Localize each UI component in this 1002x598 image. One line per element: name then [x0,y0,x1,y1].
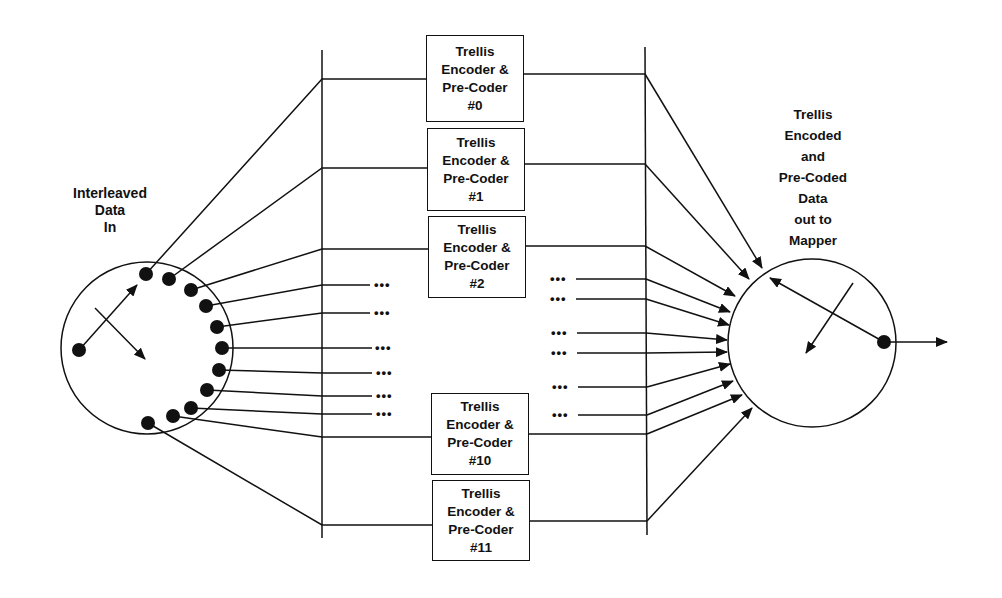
input-contacts [72,267,229,430]
ellipsis-right-4: ••• [550,294,567,304]
ellipsis-right-8: ••• [552,410,569,420]
encoder-box-0: Trellis Encoder & Pre-Coder #0 [426,35,524,122]
ellipsis-right-3: ••• [550,274,567,284]
ellipsis-right-6: ••• [551,348,568,358]
encoder-box-2: Trellis Encoder & Pre-Coder #2 [428,216,526,298]
ellipsis-left-8: ••• [376,409,393,419]
ellipsis-right-7: ••• [552,382,569,392]
input-line-10 [148,423,432,525]
ellipsis-left-6: ••• [376,368,393,378]
input-line-3 [206,285,370,306]
input-line-7 [207,390,372,396]
input-line-6 [219,370,372,373]
ellipsis-left-7: ••• [376,391,393,401]
input-line-4 [217,313,370,327]
ellipsis-left-5: ••• [375,343,392,353]
input-rotation-arrow-2 [95,308,145,359]
input-line-1 [169,168,427,279]
encoder-box-10: Trellis Encoder & Pre-Coder #10 [431,393,529,475]
input-line-0 [146,79,426,274]
ellipsis-right-5: ••• [551,328,568,338]
output-contact [877,335,891,349]
input-label: Interleaved Data In [48,185,172,236]
input-line-8 [191,408,372,414]
output-label: Trellis Encoded and Pre-Coded Data out t… [758,104,868,251]
encoder-box-1: Trellis Encoder & Pre-Coder #1 [427,128,525,211]
output-rotation-arrow-2 [806,283,853,353]
right-bus-bar [645,47,647,535]
ellipsis-left-3: ••• [374,280,391,290]
encoder-box-11: Trellis Encoder & Pre-Coder #11 [432,480,530,561]
ellipsis-left-4: ••• [374,308,391,318]
input-line-2 [191,249,429,290]
input-rotation-arrow [80,285,137,349]
output-rotation-arrow [770,278,884,342]
